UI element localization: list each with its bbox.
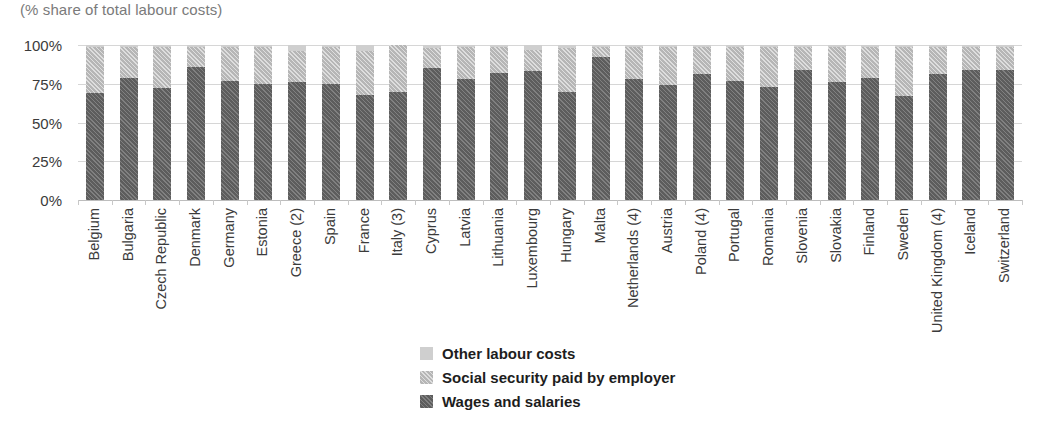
bar-column[interactable]	[659, 45, 677, 200]
x-axis-tick	[449, 200, 450, 205]
bar-column[interactable]	[423, 45, 441, 200]
bar-column[interactable]	[760, 45, 778, 200]
bar-segment	[592, 57, 610, 200]
x-axis-label: Slovenia	[795, 208, 810, 264]
x-axis-tick	[752, 200, 753, 205]
bar-column[interactable]	[457, 45, 475, 200]
bar-stack	[996, 45, 1014, 200]
bar-column[interactable]	[120, 45, 138, 200]
bar-segment	[524, 71, 542, 200]
bar-segment	[592, 47, 610, 58]
bar-column[interactable]	[490, 45, 508, 200]
x-axis-label: Slovakia	[829, 208, 844, 263]
bar-column[interactable]	[962, 45, 980, 200]
x-axis-tick	[348, 200, 349, 205]
bar-stack	[828, 45, 846, 200]
bar-stack	[288, 45, 306, 200]
bar-column[interactable]	[592, 45, 610, 200]
bar-segment	[322, 47, 340, 84]
bar-segment	[288, 51, 306, 82]
bar-column[interactable]	[288, 45, 306, 200]
legend-item[interactable]: Social security paid by employer	[420, 365, 820, 389]
bar-segment	[659, 47, 677, 86]
bar-segment	[861, 47, 879, 78]
bar-column[interactable]	[558, 45, 576, 200]
bar-stack	[929, 45, 947, 200]
x-axis-label: Luxembourg	[525, 208, 540, 289]
bar-column[interactable]	[625, 45, 643, 200]
bar-column[interactable]	[356, 45, 374, 200]
bar-segment	[254, 47, 272, 84]
bar-column[interactable]	[929, 45, 947, 200]
bar-column[interactable]	[153, 45, 171, 200]
bar-column[interactable]	[322, 45, 340, 200]
x-axis-tick	[887, 200, 888, 205]
y-axis-tick-label: 75%	[32, 75, 62, 92]
bar-segment	[625, 47, 643, 80]
x-axis-label: Spain	[323, 208, 338, 245]
bar-column[interactable]	[996, 45, 1014, 200]
gridline	[78, 45, 1022, 46]
bar-stack	[389, 45, 407, 200]
x-axis-tick	[1022, 200, 1023, 205]
legend-item[interactable]: Wages and salaries	[420, 389, 820, 413]
x-axis-tick	[921, 200, 922, 205]
bar-stack	[153, 45, 171, 200]
x-axis-label: Lithuania	[491, 208, 506, 267]
bar-column[interactable]	[86, 45, 104, 200]
gridline	[78, 123, 1022, 124]
x-axis-tick	[247, 200, 248, 205]
bar-segment	[861, 78, 879, 200]
bar-segment	[625, 79, 643, 200]
x-axis-tick	[955, 200, 956, 205]
bar-column[interactable]	[524, 45, 542, 200]
x-axis-label: Denmark	[188, 208, 203, 267]
chart-legend: Other labour costsSocial security paid b…	[420, 341, 820, 413]
bar-segment	[288, 82, 306, 200]
bar-stack	[895, 45, 913, 200]
bar-segment	[962, 70, 980, 200]
bar-segment	[558, 92, 576, 201]
bar-column[interactable]	[794, 45, 812, 200]
bar-stack	[524, 45, 542, 200]
bar-column[interactable]	[221, 45, 239, 200]
bar-stack	[726, 45, 744, 200]
bar-segment	[794, 47, 812, 70]
bar-stack	[659, 45, 677, 200]
x-axis-tick	[112, 200, 113, 205]
bar-column[interactable]	[187, 45, 205, 200]
legend-item[interactable]: Other labour costs	[420, 341, 820, 365]
x-axis-label: Czech Republic	[154, 208, 169, 310]
x-axis-tick	[415, 200, 416, 205]
y-axis-labels: 0%25%50%75%100%	[0, 45, 70, 200]
bar-column[interactable]	[895, 45, 913, 200]
bar-segment	[356, 51, 374, 94]
x-axis-label: Netherlands (4)	[626, 208, 641, 308]
x-axis-label: Cyprus	[424, 208, 439, 254]
x-axis-ticks	[78, 200, 1022, 206]
bar-segment	[356, 95, 374, 200]
bar-column[interactable]	[254, 45, 272, 200]
bar-column[interactable]	[726, 45, 744, 200]
bar-segment	[726, 47, 744, 81]
y-axis-tick-label: 0%	[40, 192, 62, 209]
bar-column[interactable]	[389, 45, 407, 200]
bar-segment	[120, 78, 138, 200]
bar-column[interactable]	[828, 45, 846, 200]
bar-segment	[996, 47, 1014, 70]
bar-segment	[693, 47, 711, 75]
x-axis-tick	[213, 200, 214, 205]
bar-column[interactable]	[861, 45, 879, 200]
x-axis-labels: BelgiumBulgariaCzech RepublicDenmarkGerm…	[78, 208, 1022, 338]
bar-column[interactable]	[693, 45, 711, 200]
bar-stack	[221, 45, 239, 200]
bar-segment	[760, 87, 778, 200]
bar-stack	[322, 45, 340, 200]
x-axis-tick	[381, 200, 382, 205]
x-axis-tick	[988, 200, 989, 205]
bar-stack	[254, 45, 272, 200]
x-axis-label: Bulgaria	[121, 208, 136, 261]
x-axis-label: France	[357, 208, 372, 253]
bar-segment	[389, 92, 407, 201]
chart-subtitle: (% share of total labour costs)	[20, 1, 222, 18]
